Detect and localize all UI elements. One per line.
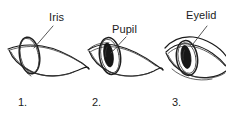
label-iris: Iris (49, 11, 64, 23)
eyelid-leader-line (193, 26, 207, 44)
eye-drawing-canvas (0, 0, 226, 140)
step-number-1: 1. (18, 96, 27, 108)
step-number-2: 2. (92, 96, 101, 108)
eye-drawing-figure: Iris Pupil Eyelid 1. 2. 3. (0, 0, 226, 140)
step-3-pupil-shape (180, 45, 193, 69)
label-eyelid: Eyelid (186, 9, 217, 21)
step-2-pupil-shape (102, 42, 114, 67)
label-pupil: Pupil (112, 23, 137, 35)
step-number-3: 3. (172, 96, 181, 108)
step-1-drawing (8, 36, 89, 76)
step-3-drawing (165, 37, 226, 80)
step-2-drawing (88, 36, 163, 76)
iris-leader-line (34, 26, 53, 48)
